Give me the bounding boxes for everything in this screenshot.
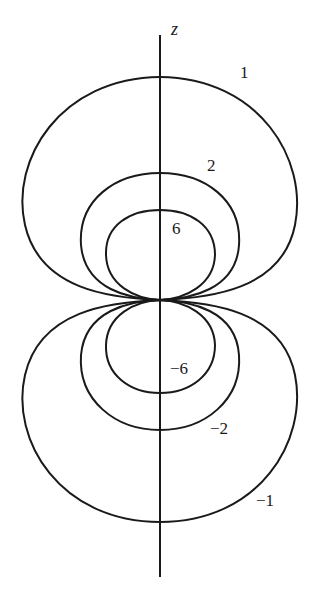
contour-label-2: 2 — [207, 157, 216, 174]
z-axis-label: z — [171, 20, 178, 38]
contour-label-neg-2: −2 — [210, 420, 228, 437]
contour-label-1: 1 — [240, 64, 249, 81]
contour-label-6: 6 — [172, 220, 181, 237]
contour-label-neg-1: −1 — [256, 492, 274, 509]
contour-label-neg-6: −6 — [170, 360, 188, 377]
